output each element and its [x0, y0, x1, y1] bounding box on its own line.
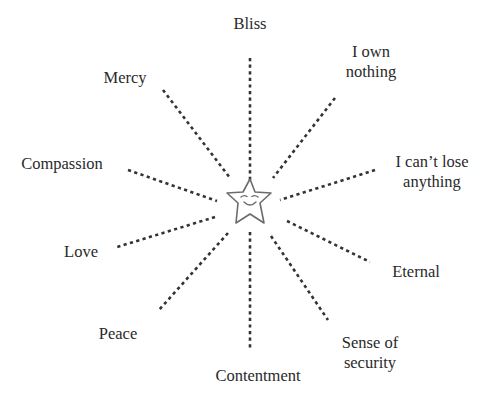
label-text: anything [395, 172, 468, 192]
spoke-peace [159, 233, 228, 310]
label-text: Love [64, 242, 98, 262]
label-sense-of-security: Sense of security [342, 333, 398, 373]
label-contentment: Contentment [215, 366, 300, 386]
label-love: Love [64, 242, 98, 262]
spoke-mercy [163, 90, 230, 178]
label-text: Mercy [103, 68, 146, 88]
label-i-cant-lose-anything: I can’t lose anything [395, 152, 468, 192]
label-text: I can’t lose [395, 152, 468, 172]
spoke-compassion [128, 170, 217, 201]
spoke-i-own-nothing [273, 98, 335, 178]
label-text: I own [346, 42, 396, 62]
spoke-eternal [287, 221, 370, 262]
spoke-love [114, 217, 215, 248]
label-text: Sense of [342, 333, 398, 353]
label-i-own-nothing: I own nothing [346, 42, 396, 82]
label-text: security [342, 353, 398, 373]
label-mercy: Mercy [103, 68, 146, 88]
label-text: Peace [99, 324, 137, 344]
spoke-i-cant-lose-anything [280, 170, 375, 200]
label-text: Contentment [215, 366, 300, 386]
label-eternal: Eternal [392, 262, 440, 282]
spoke-sense-of-security [271, 236, 328, 320]
label-bliss: Bliss [233, 14, 266, 34]
label-text: Bliss [233, 14, 266, 34]
label-compassion: Compassion [21, 154, 103, 174]
label-text: nothing [346, 62, 396, 82]
smiling-star-icon [224, 177, 276, 227]
label-peace: Peace [99, 324, 137, 344]
label-text: Eternal [392, 262, 440, 282]
label-text: Compassion [21, 154, 103, 174]
